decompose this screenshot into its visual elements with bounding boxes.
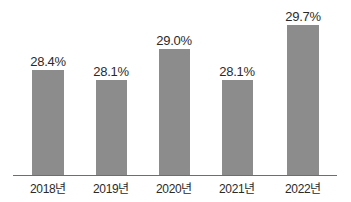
category-label-2019: 2019년 [81,179,141,196]
value-label-2020: 29.0% [144,33,204,48]
bar-2020 [159,49,190,175]
category-label-2020: 2020년 [144,179,204,196]
bar-2021 [222,80,253,175]
value-label-2018: 28.4% [18,54,78,69]
bar-2018 [32,70,64,175]
bar-2022 [287,25,319,175]
category-label-2022: 2022년 [273,179,333,196]
value-label-2022: 29.7% [273,9,333,24]
category-label-2021: 2021년 [207,179,267,196]
bar-2019 [96,80,127,175]
category-label-2018: 2018년 [18,179,78,196]
value-label-2021: 28.1% [207,64,267,79]
bar-chart: 28.4% 2018년 28.1% 2019년 29.0% 2020년 28.1… [0,0,351,202]
value-label-2019: 28.1% [81,64,141,79]
x-axis-line [13,175,337,176]
